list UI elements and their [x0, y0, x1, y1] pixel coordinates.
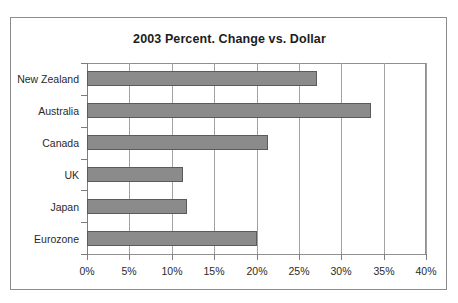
- x-tick-10: [172, 254, 173, 260]
- x-tick-5: [129, 254, 130, 260]
- x-tick-label: 5%: [109, 265, 149, 277]
- bar: [87, 167, 183, 182]
- x-tick-15: [214, 254, 215, 260]
- x-tick-label: 30%: [321, 265, 361, 277]
- x-tick-30: [341, 254, 342, 260]
- x-tick-35: [384, 254, 385, 260]
- chart-title: 2003 Percent. Change vs. Dollar: [11, 32, 448, 46]
- category-label: UK: [64, 169, 79, 181]
- gridline-20: [257, 63, 258, 254]
- gridline-35: [384, 63, 385, 254]
- gridline-10: [172, 63, 173, 254]
- y-tick: [81, 63, 87, 64]
- category-label: Japan: [50, 201, 79, 213]
- bar: [87, 71, 317, 86]
- gridline-30: [341, 63, 342, 254]
- x-tick-20: [257, 254, 258, 260]
- plot-area: [87, 63, 426, 254]
- x-tick-40: [426, 254, 427, 260]
- bar: [87, 231, 257, 246]
- x-tick-label: 35%: [364, 265, 404, 277]
- y-axis-category-labels: New ZealandAustraliaCanadaUKJapanEurozon…: [11, 63, 79, 254]
- chart-page: 2003 Percent. Change vs. Dollar New Zeal…: [0, 0, 458, 303]
- bar: [87, 199, 187, 214]
- gridline-25: [299, 63, 300, 254]
- x-tick-label: 15%: [194, 265, 234, 277]
- y-tick: [81, 95, 87, 96]
- x-tick-label: 20%: [237, 265, 277, 277]
- y-tick: [81, 127, 87, 128]
- x-tick-25: [299, 254, 300, 260]
- gridline-15: [214, 63, 215, 254]
- bar: [87, 103, 371, 118]
- bar: [87, 135, 268, 150]
- category-label: Canada: [42, 137, 79, 149]
- y-tick: [81, 254, 87, 255]
- y-tick: [81, 222, 87, 223]
- x-tick-label: 10%: [152, 265, 192, 277]
- x-tick-label: 40%: [406, 265, 446, 277]
- figure-frame: 2003 Percent. Change vs. Dollar New Zeal…: [10, 17, 447, 290]
- category-label: Eurozone: [34, 233, 79, 245]
- gridline-40: [426, 63, 427, 254]
- y-tick: [81, 159, 87, 160]
- x-tick-label: 0%: [67, 265, 107, 277]
- x-tick-0: [87, 254, 88, 260]
- gridline-5: [129, 63, 130, 254]
- category-label: New Zealand: [17, 73, 79, 85]
- y-tick: [81, 190, 87, 191]
- category-label: Australia: [38, 105, 79, 117]
- y-axis-line: [87, 63, 88, 255]
- x-tick-label: 25%: [279, 265, 319, 277]
